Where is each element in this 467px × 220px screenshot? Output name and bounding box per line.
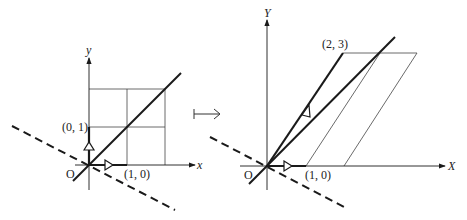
dashed-line	[12, 126, 175, 210]
image-vector-e2	[267, 53, 343, 166]
left-plane: y x O (1, 0) (0, 1)	[12, 43, 203, 210]
y-axis-label: y	[85, 43, 92, 57]
Y-axis-label: Y	[264, 6, 272, 20]
point-0-1-label: (0, 1)	[62, 120, 88, 134]
arrowhead-image-e1-icon	[284, 161, 292, 171]
x-axis-label: x	[196, 158, 203, 172]
X-axis-label: X	[447, 159, 456, 173]
right-plane: Y X O (1, 0) (2, 3)	[210, 6, 456, 208]
origin-label: O	[66, 167, 75, 181]
diagram-canvas: y x O (1, 0) (0, 1) Y X O (	[0, 0, 467, 220]
origin-label-right: O	[244, 168, 253, 182]
point-1-0-label: (1, 0)	[124, 167, 150, 181]
point-1-0-label-right: (1, 0)	[305, 168, 331, 182]
shear-transformation-diagram: y x O (1, 0) (0, 1) Y X O (	[0, 0, 467, 220]
maps-to-arrow-icon	[194, 109, 220, 119]
arrowhead-e2-icon	[84, 142, 94, 150]
point-2-3-label: (2, 3)	[322, 37, 348, 51]
arrowhead-e1-icon	[105, 160, 113, 170]
